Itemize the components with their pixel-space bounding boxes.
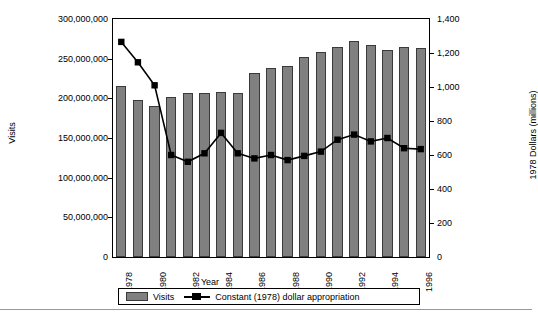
footer-rule bbox=[0, 309, 532, 310]
line-marker bbox=[151, 82, 157, 88]
y-tick-label-right: 600 bbox=[437, 150, 452, 160]
y-tick-label-left: 150,000,000 bbox=[58, 133, 108, 143]
y-tickmark-right bbox=[429, 155, 434, 156]
line-marker bbox=[235, 150, 241, 156]
y-tickmark-right bbox=[429, 223, 434, 224]
y-tick-label-right: 0 bbox=[437, 252, 442, 262]
line-marker bbox=[401, 145, 407, 151]
x-tick-label: 1996 bbox=[424, 272, 434, 292]
legend-item-visits: Visits bbox=[126, 292, 174, 302]
line-series-appropriation bbox=[113, 19, 429, 257]
y-tick-label-right: 400 bbox=[437, 184, 452, 194]
y-tickmark-left bbox=[108, 138, 113, 139]
line-marker bbox=[318, 148, 324, 154]
line-marker bbox=[135, 59, 141, 65]
plot-inner bbox=[113, 19, 429, 257]
line-marker bbox=[384, 135, 390, 141]
y-tickmark-left bbox=[108, 217, 113, 218]
y-tickmark-left bbox=[108, 98, 113, 99]
y-tick-label-right: 1,200 bbox=[437, 48, 460, 58]
line-marker bbox=[334, 137, 340, 143]
y-tickmark-right bbox=[429, 121, 434, 122]
plot-area bbox=[112, 18, 430, 258]
y-tick-label-left: 50,000,000 bbox=[63, 212, 108, 222]
y-tickmark-right bbox=[429, 53, 434, 54]
line-marker bbox=[168, 152, 174, 158]
y-tickmark-right bbox=[429, 189, 434, 190]
y-tick-label-right: 800 bbox=[437, 116, 452, 126]
y-tickmark-left bbox=[108, 178, 113, 179]
line-marker bbox=[118, 39, 124, 45]
y-tick-label-right: 200 bbox=[437, 218, 452, 228]
y-tick-label-right: 1,400 bbox=[437, 14, 460, 24]
y-tick-label-left: 200,000,000 bbox=[58, 93, 108, 103]
line-marker bbox=[301, 153, 307, 159]
y-tick-label-left: 300,000,000 bbox=[58, 14, 108, 24]
line-marker bbox=[251, 155, 257, 161]
y-tick-label-left: 0 bbox=[103, 252, 108, 262]
y-axis-left-ticks: 050,000,000100,000,000150,000,000200,000… bbox=[0, 0, 108, 317]
line-marker bbox=[351, 131, 357, 137]
line-path bbox=[121, 42, 420, 162]
legend-item-appropriation: Constant (1978) dollar appropriation bbox=[184, 292, 359, 302]
line-marker bbox=[201, 150, 207, 156]
line-marker bbox=[284, 157, 290, 163]
legend-label-appropriation: Constant (1978) dollar appropriation bbox=[215, 292, 359, 302]
y-tick-label-left: 250,000,000 bbox=[58, 54, 108, 64]
line-marker bbox=[185, 159, 191, 165]
chart-legend: Visits Constant (1978) dollar appropriat… bbox=[118, 288, 420, 305]
y-tickmark-right bbox=[429, 87, 434, 88]
line-marker bbox=[218, 130, 224, 136]
y-tick-label-left: 100,000,000 bbox=[58, 173, 108, 183]
line-marker bbox=[368, 138, 374, 144]
line-marker bbox=[268, 152, 274, 158]
line-square-marker-icon bbox=[184, 292, 210, 301]
legend-label-visits: Visits bbox=[153, 292, 174, 302]
y-tick-label-right: 1,000 bbox=[437, 82, 460, 92]
y-axis-right-ticks: 02004006008001,0001,2001,400 bbox=[437, 0, 497, 317]
line-marker bbox=[418, 146, 424, 152]
y-axis-right-title: 1978 Dollars (millions) bbox=[528, 75, 538, 195]
bar-swatch-icon bbox=[126, 292, 148, 301]
y-tickmark-left bbox=[108, 59, 113, 60]
